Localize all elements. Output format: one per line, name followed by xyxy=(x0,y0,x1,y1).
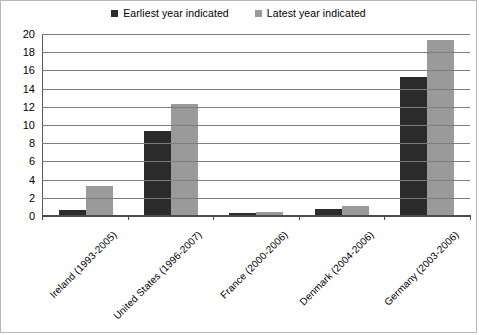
y-tick-label: 18 xyxy=(23,47,35,58)
y-axis: 20181614121086420 xyxy=(1,34,41,216)
x-axis-label: France (2000-2006) xyxy=(218,229,290,301)
x-axis-tick xyxy=(128,215,129,220)
gridline xyxy=(42,125,470,126)
chart-legend: Earliest year indicated Latest year indi… xyxy=(1,7,476,19)
x-axis-category-labels: Ireland (1993-2005)United States (1996-2… xyxy=(42,229,468,334)
bar xyxy=(59,210,86,215)
y-tick-label: 20 xyxy=(23,29,35,40)
bar xyxy=(86,186,113,215)
gridline xyxy=(42,161,470,162)
legend-label-earliest-year: Earliest year indicated xyxy=(123,7,229,19)
plot-area: 20181614121086420 xyxy=(1,34,478,224)
x-axis-tick xyxy=(213,215,214,220)
gridline xyxy=(42,107,470,108)
y-tick-label: 10 xyxy=(23,120,35,131)
x-axis-label: United States (1996-2007) xyxy=(112,229,204,321)
x-axis-label: Germany (2003-2006) xyxy=(382,229,461,308)
x-axis-label: Denmark (2004-2006) xyxy=(297,229,375,307)
bar xyxy=(400,77,427,215)
y-tick-label: 6 xyxy=(29,156,35,167)
x-axis-tick xyxy=(42,215,43,220)
y-tick-label: 12 xyxy=(23,101,35,112)
gridline xyxy=(42,52,470,53)
legend-item-latest-year: Latest year indicated xyxy=(255,7,366,19)
bar xyxy=(342,206,369,215)
y-tick-label: 0 xyxy=(29,211,35,222)
gridline xyxy=(42,198,470,199)
gridline xyxy=(42,70,470,71)
gridline xyxy=(42,89,470,90)
y-tick-label: 14 xyxy=(23,83,35,94)
gridline xyxy=(42,34,470,35)
bar xyxy=(229,213,256,215)
y-tick-label: 2 xyxy=(29,192,35,203)
plot-canvas xyxy=(42,34,470,216)
gridline xyxy=(42,180,470,181)
x-axis-tick xyxy=(299,215,300,220)
bar xyxy=(315,209,342,215)
x-axis-tick xyxy=(470,215,471,220)
y-tick-label: 4 xyxy=(29,174,35,185)
bar xyxy=(427,40,454,215)
bar-chart: Earliest year indicated Latest year indi… xyxy=(0,0,477,333)
x-axis-label: Ireland (1993-2005) xyxy=(47,229,118,300)
x-axis-tick xyxy=(384,215,385,220)
y-tick-label: 16 xyxy=(23,65,35,76)
y-tick-label: 8 xyxy=(29,138,35,149)
legend-swatch-earliest-year xyxy=(111,10,118,17)
legend-swatch-latest-year xyxy=(255,10,262,17)
legend-label-latest-year: Latest year indicated xyxy=(267,7,366,19)
legend-item-earliest-year: Earliest year indicated xyxy=(111,7,229,19)
gridline xyxy=(42,216,470,217)
gridline xyxy=(42,143,470,144)
bar xyxy=(256,212,283,215)
